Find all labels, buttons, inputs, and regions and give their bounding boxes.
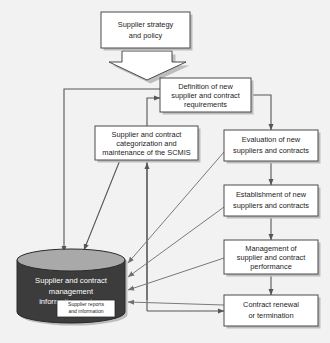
connector-management-to-database — [128, 258, 224, 290]
node-label-line: Evaluation of new — [242, 135, 301, 144]
database-label-line: management — [49, 287, 94, 296]
node-label-line: Definition of new — [178, 82, 233, 91]
connector-evaluation-to-database — [128, 152, 224, 263]
node-database-cylinder[interactable]: Supplier and contract management informa… — [17, 249, 128, 326]
node-label-line: supplier and contract — [171, 91, 240, 100]
node-label-line: Contract renewal — [243, 300, 299, 309]
node-label-line: Supplier and contract — [112, 130, 182, 139]
connector-categorization-to-database — [84, 160, 120, 250]
node-label-line: maintenance of the SCMIS — [102, 148, 190, 157]
node-label-line: and policy — [129, 31, 163, 40]
node-contract-renewal-or-termination[interactable]: Contract renewal or termination — [224, 295, 321, 329]
supplier-reports-and-information-label[interactable]: Supplier reports and information — [57, 300, 115, 317]
node-establishment-of-new-suppliers-and-contracts[interactable]: Establishment of new suppliers and contr… — [224, 185, 321, 219]
node-definition-of-new-supplier-and-contract-requirements[interactable]: Definition of new supplier and contract … — [160, 78, 254, 115]
node-label-line: suppliers and contracts — [233, 201, 309, 210]
inner-label-line: and information — [68, 308, 103, 314]
node-label-line: requirements — [184, 100, 227, 109]
node-label-line: or termination — [248, 311, 293, 320]
node-label-line: Management of — [245, 244, 297, 253]
database-label-line: Supplier and contract — [35, 276, 108, 285]
database-cylinder-top — [17, 249, 125, 271]
node-label-line: supplier and contract — [237, 253, 306, 262]
connector-renewal-to-database — [128, 302, 224, 305]
process-flow-diagram: Supplier strategy and policy Definition … — [0, 0, 330, 343]
node-management-of-supplier-and-contract-performance[interactable]: Management of supplier and contract perf… — [224, 240, 321, 277]
node-label-line: categorization and — [116, 139, 176, 148]
node-supplier-strategy-and-policy[interactable]: Supplier strategy and policy — [101, 12, 193, 51]
flowchart-canvas: Supplier strategy and policy Definition … — [0, 0, 330, 343]
node-label-line: performance — [250, 262, 292, 271]
node-label-line: Establishment of new — [236, 190, 307, 199]
node-evaluation-of-new-suppliers-and-contracts[interactable]: Evaluation of new suppliers and contract… — [224, 130, 321, 164]
node-supplier-and-contract-categorization[interactable]: Supplier and contract categorization and… — [95, 126, 201, 163]
node-label-line: suppliers and contracts — [233, 146, 309, 155]
inner-label-line: Supplier reports — [68, 301, 104, 307]
connector-establishment-to-database — [128, 207, 224, 277]
node-label-line: Supplier strategy — [118, 20, 174, 29]
connector-definition-to-evaluation — [251, 95, 271, 130]
